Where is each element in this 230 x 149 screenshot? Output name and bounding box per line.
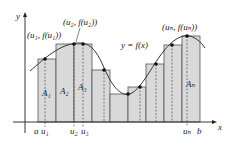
tick-label-un: uₙ: [183, 126, 192, 136]
rect-6: [128, 87, 146, 122]
point-label-u2: (u₂, f(u₂)): [63, 17, 97, 27]
area-label-an: Aₙ: [185, 79, 195, 89]
area-label-a3: A₃: [77, 82, 87, 92]
tick-label-u3: u₃: [81, 126, 89, 136]
area-label-a2: A₂: [59, 86, 69, 96]
tick-label-b: b: [197, 126, 202, 136]
tick-label-u2: u₂: [70, 126, 78, 136]
riemann-sum-diagram: y x y = f(x) (u₁, f(u₁)) (u₂, f(u₂)) (uₙ…: [0, 0, 230, 149]
rect-8: [164, 45, 182, 122]
y-axis-label: y: [15, 11, 20, 21]
point-label-u1: (u₁, f(u₁)): [27, 30, 61, 40]
y-axis-arrow-icon: [23, 12, 27, 17]
curve-label: y = f(x): [120, 40, 148, 50]
x-axis-label: x: [217, 122, 222, 132]
point-label-un: (uₙ, f(uₙ)): [162, 22, 197, 32]
tick-label-a: a: [34, 126, 39, 136]
rectangles: [38, 36, 200, 122]
x-axis-arrow-icon: [212, 120, 217, 124]
u2-leader-line: [76, 28, 80, 42]
area-label-a1: A₁: [41, 88, 51, 98]
rect-5: [110, 94, 128, 122]
rect-2: [56, 44, 74, 122]
tick-label-u1: u₁: [41, 126, 49, 136]
rect-4: [92, 70, 110, 122]
